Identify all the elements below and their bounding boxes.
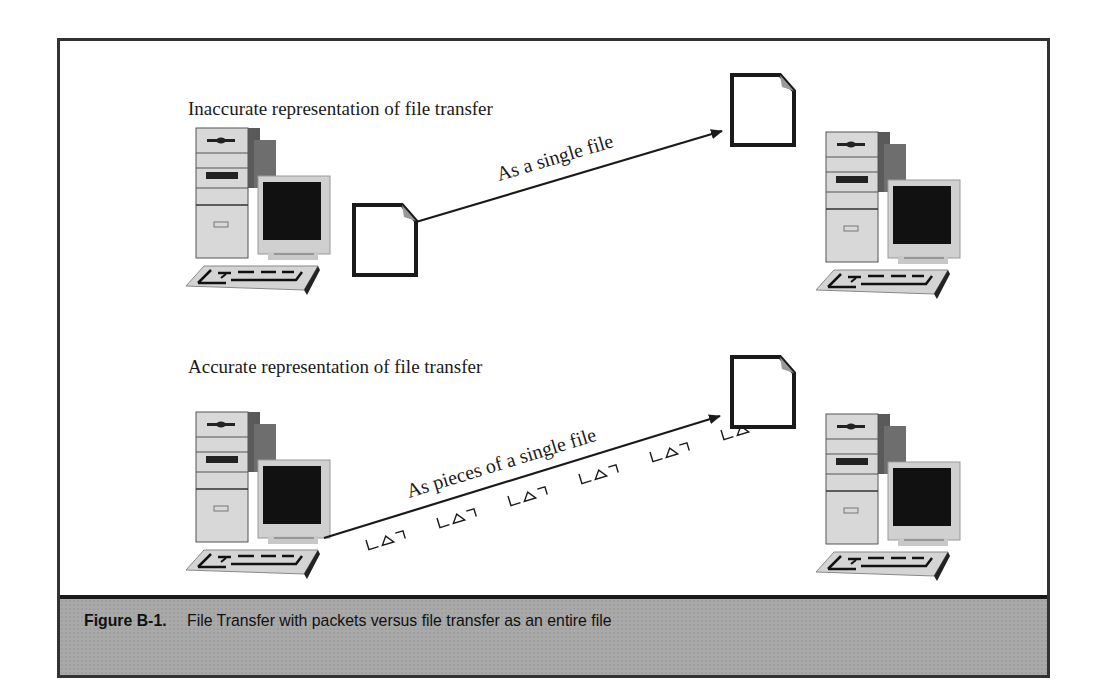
packet-icon [650,441,689,462]
diagram-canvas: As a single file As pieces of a single f… [0,0,1109,692]
destination-computer-icon [816,414,960,581]
arrow-label-single: As a single file [494,129,616,185]
received-file-icon [732,357,794,427]
source-computer-icon [186,128,330,295]
packet-icon [508,485,547,506]
destination-computer-icon [816,132,960,299]
received-file-icon [732,75,794,145]
packet-icon [437,507,476,528]
packet-icon [366,529,405,550]
packet-icon [579,463,618,484]
transfer-arrow [324,416,720,538]
source-computer-icon [186,412,330,579]
file-icon [354,205,416,275]
